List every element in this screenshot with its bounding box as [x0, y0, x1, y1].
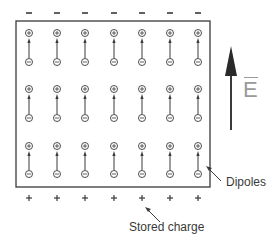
bottom-plate-plus-charge — [139, 195, 145, 201]
bottom-plate-plus-charge — [111, 195, 117, 201]
dielectric-box — [16, 21, 210, 187]
dipoles-label: Dipoles — [226, 175, 266, 189]
field-label: E — [243, 77, 258, 103]
dipole — [167, 143, 174, 178]
dipole — [26, 143, 33, 178]
dipole — [167, 30, 174, 66]
dipole — [139, 86, 146, 122]
dipole — [167, 86, 174, 122]
dipoles-pointer — [209, 169, 221, 181]
dipole — [195, 86, 202, 122]
dipole — [26, 86, 33, 122]
bottom-plate-plus-charge — [195, 195, 201, 201]
dipole — [139, 30, 146, 66]
bottom-plate-plus-charge — [54, 195, 60, 201]
dipole — [195, 30, 202, 66]
dipole — [54, 30, 61, 66]
bottom-plate-plus-charge — [82, 195, 88, 201]
dipole — [54, 86, 61, 122]
dipole — [111, 86, 118, 122]
dipole — [139, 143, 146, 178]
dipole — [111, 30, 118, 66]
stored-charge-label: Stored charge — [129, 220, 204, 234]
dipole — [195, 143, 202, 178]
dipole — [82, 86, 89, 122]
capacitor-diagram — [0, 0, 276, 249]
field-arrow-icon — [225, 46, 237, 130]
dipole — [54, 143, 61, 178]
dipole-grid — [26, 30, 202, 178]
dipole — [26, 30, 33, 66]
dipole — [82, 143, 89, 178]
bottom-plate-plus-charge — [167, 195, 173, 201]
bottom-plate-charges — [26, 195, 201, 201]
bottom-plate-plus-charge — [26, 195, 32, 201]
dipole — [82, 30, 89, 66]
dipole — [111, 143, 118, 178]
